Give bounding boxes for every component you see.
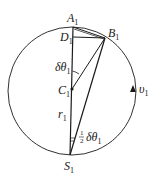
angle-arc-top (73, 71, 80, 74)
diameter-line (70, 27, 73, 155)
label-radius: r1 (58, 107, 67, 123)
label-a: A1 (66, 11, 78, 27)
chord-a-b (73, 27, 105, 38)
label-velocity: υ1 (139, 82, 149, 98)
label-d: D1 (59, 30, 73, 46)
angle-bottom-text: δθ1 (86, 130, 101, 146)
label-s: S1 (64, 159, 74, 175)
frac-num: 1 (80, 129, 84, 137)
circle-diagram: A1 D1 B1 C1 S1 δθ1 r1 υ1 1 2 δθ1 (0, 0, 163, 183)
label-b: B1 (108, 26, 119, 42)
line-d-b (73, 37, 105, 38)
center-dot (70, 87, 73, 90)
label-angle-bottom: 1 2 δθ1 (79, 129, 101, 146)
velocity-arrow-icon (130, 85, 136, 92)
label-c: C1 (58, 83, 70, 99)
line-c-b (72, 38, 105, 89)
frac-den: 2 (80, 137, 84, 145)
label-angle-top: δθ1 (55, 60, 70, 76)
